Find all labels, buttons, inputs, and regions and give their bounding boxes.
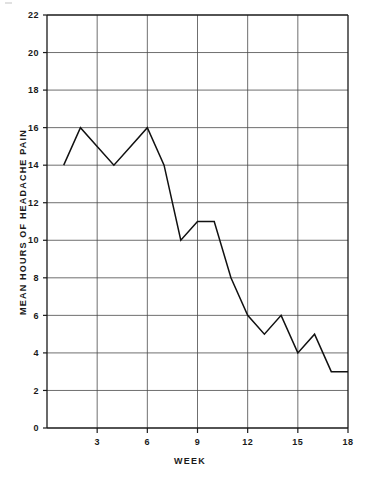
y-tick-label: 14 — [28, 160, 39, 170]
y-tick-label: 4 — [33, 348, 39, 358]
y-tick-label: 10 — [28, 235, 39, 245]
y-tick-label: 2 — [33, 386, 39, 396]
x-tick-label: 6 — [145, 437, 151, 447]
x-tick-label: 15 — [292, 437, 303, 447]
y-tick-label: 8 — [33, 273, 39, 283]
line-chart: 2220181614121086420 369121518 WEEK MEAN … — [0, 0, 375, 481]
y-tick-label: 20 — [28, 48, 39, 58]
y-axis-title: MEAN HOURS OF HEADACHE PAIN — [18, 129, 28, 315]
x-tick-label: 18 — [342, 437, 353, 447]
x-axis-title: WEEK — [174, 456, 206, 466]
x-tick-label: 12 — [242, 437, 253, 447]
y-tick-label: 0 — [33, 423, 39, 433]
y-tick-label: 22 — [28, 10, 39, 20]
x-tick-label: 3 — [94, 437, 100, 447]
x-tick-label: 9 — [195, 437, 201, 447]
chart-container: 2220181614121086420 369121518 WEEK MEAN … — [0, 0, 375, 481]
y-tick-label: 16 — [28, 123, 39, 133]
y-tick-label: 6 — [33, 311, 39, 321]
y-tick-label: 12 — [28, 198, 39, 208]
y-tick-label: 18 — [28, 85, 39, 95]
scan-artifact — [5, 2, 12, 4]
